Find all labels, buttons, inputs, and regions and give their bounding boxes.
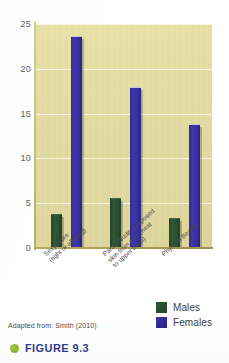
gridline bbox=[35, 203, 212, 204]
gridline bbox=[35, 114, 212, 115]
legend-label-males: Males bbox=[173, 302, 200, 313]
figure-caption: FIGURE 9.3 bbox=[10, 342, 89, 354]
y-axis-tick-label: 10 bbox=[5, 153, 31, 163]
y-axis-tick-label: 25 bbox=[5, 19, 31, 29]
gridline bbox=[35, 158, 212, 159]
y-axis-line bbox=[34, 22, 36, 250]
legend-swatch-females-icon bbox=[156, 317, 167, 328]
bar-females-0 bbox=[71, 36, 82, 248]
y-axis-tick-label: 5 bbox=[5, 198, 31, 208]
gridline bbox=[35, 24, 212, 25]
y-axis-tick-label: 20 bbox=[5, 64, 31, 74]
legend-label-females: Females bbox=[173, 317, 212, 328]
legend-swatch-males-icon bbox=[156, 302, 167, 313]
bullet-icon bbox=[10, 344, 19, 353]
figure-caption-text: FIGURE 9.3 bbox=[25, 342, 89, 354]
y-axis-tick-label: 15 bbox=[5, 109, 31, 119]
legend-item-females: Females bbox=[156, 317, 212, 328]
chart-legend: Males Females bbox=[156, 302, 212, 332]
figure-9-3: 0510152025 Sexy Attire(tight or alluring… bbox=[0, 0, 229, 363]
gridline bbox=[35, 69, 212, 70]
chart-plot-area bbox=[35, 24, 212, 248]
source-note: Adapted from: Smith (2010) bbox=[8, 322, 97, 329]
legend-item-males: Males bbox=[156, 302, 212, 313]
